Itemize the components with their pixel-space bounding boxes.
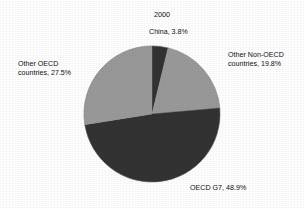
slice-label-oecd-g7: OECD G7, 48.9% [190,184,246,193]
slice-label-other-non-oecd-line2: countries, 19.8% [228,60,281,68]
pie-slice-other-oecd-countries [84,46,152,125]
pie-chart: 2000 China, 3.8% Other Non-OECDcountries… [0,0,304,208]
slice-label-other-oecd-line2: countries, 27.5% [18,69,71,77]
slice-label-other-oecd: Other OECDcountries, 27.5% [18,60,71,78]
slice-label-other-non-oecd: Other Non-OECDcountries, 19.8% [228,51,284,69]
slice-label-other-non-oecd-line1: Other Non-OECD [228,51,284,59]
pie-slices [84,46,220,182]
slice-label-other-oecd-line1: Other OECD [18,60,58,68]
slice-label-china: China, 3.8% [149,28,188,37]
